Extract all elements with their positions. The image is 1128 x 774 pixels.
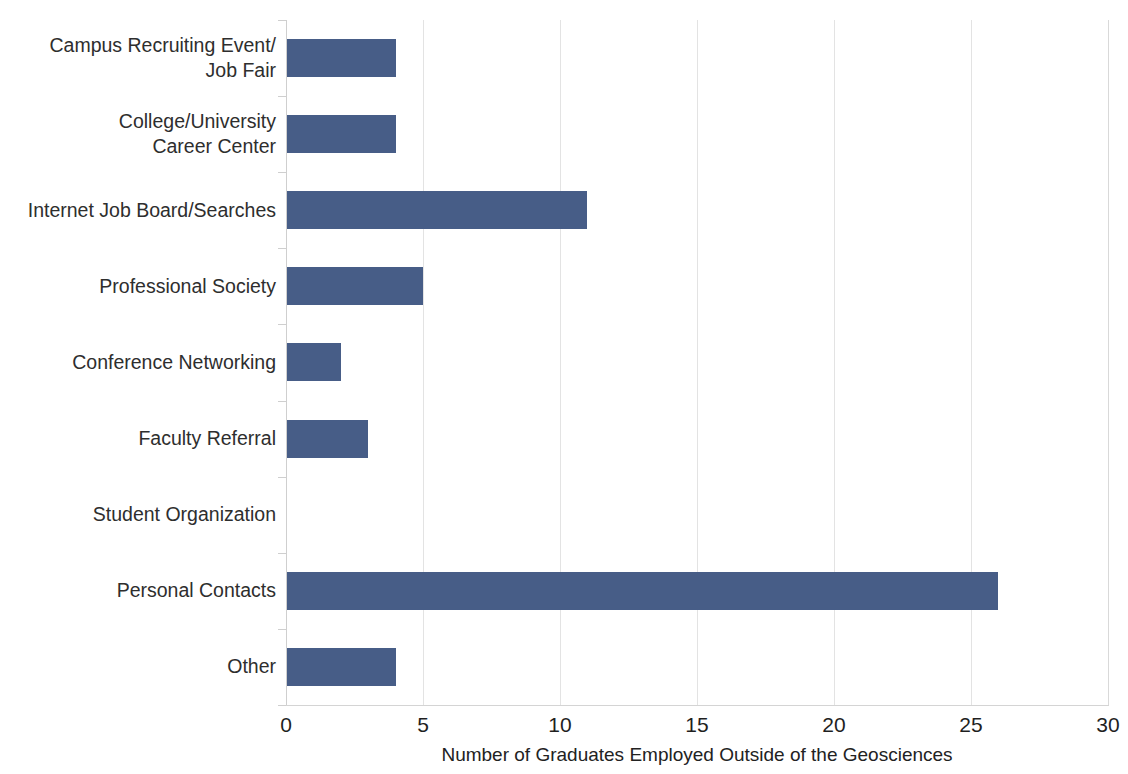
x-axis-tick-label: 30 <box>1096 710 1119 740</box>
gridline <box>1108 20 1109 705</box>
category-axis-labels: Campus Recruiting Event/ Job FairCollege… <box>0 20 286 705</box>
category-label: Personal Contacts <box>14 578 286 603</box>
x-axis-tick-label: 25 <box>959 710 982 740</box>
bar[interactable] <box>286 39 396 77</box>
category-label-slot: Professional Society <box>0 248 286 324</box>
category-label-slot: Faculty Referral <box>0 401 286 477</box>
category-label-slot: Other <box>0 629 286 705</box>
category-axis-tick <box>278 705 286 706</box>
category-label-slot: College/University Career Center <box>0 96 286 172</box>
category-axis-tick <box>278 401 286 402</box>
bar-row <box>286 553 1108 629</box>
bar-chart: Campus Recruiting Event/ Job FairCollege… <box>0 0 1128 774</box>
x-axis-tick-label: 5 <box>417 710 429 740</box>
bar-row <box>286 172 1108 248</box>
category-label: Conference Networking <box>14 350 286 375</box>
plot-area <box>286 20 1108 705</box>
x-axis-tick-label: 0 <box>280 710 292 740</box>
category-axis-tick <box>278 553 286 554</box>
category-label-slot: Personal Contacts <box>0 553 286 629</box>
bar-row <box>286 629 1108 705</box>
category-axis-tick <box>278 324 286 325</box>
bar-row <box>286 477 1108 553</box>
category-axis-tick <box>278 629 286 630</box>
bar[interactable] <box>286 343 341 381</box>
category-axis-tick <box>278 477 286 478</box>
category-axis-tick <box>278 96 286 97</box>
category-label: Campus Recruiting Event/ Job Fair <box>14 33 286 83</box>
bar-row <box>286 248 1108 324</box>
x-axis-tick-label: 10 <box>548 710 571 740</box>
bar[interactable] <box>286 267 423 305</box>
x-axis-tick-label: 15 <box>685 710 708 740</box>
category-label-slot: Campus Recruiting Event/ Job Fair <box>0 20 286 96</box>
bar-row <box>286 96 1108 172</box>
bar-row <box>286 401 1108 477</box>
bar[interactable] <box>286 115 396 153</box>
category-label: Other <box>14 654 286 679</box>
category-label: Student Organization <box>14 502 286 527</box>
bar[interactable] <box>286 572 998 610</box>
category-axis-tick <box>278 172 286 173</box>
category-label: College/University Career Center <box>14 109 286 159</box>
bar-row <box>286 20 1108 96</box>
category-label: Faculty Referral <box>14 426 286 451</box>
category-axis-tick <box>278 20 286 21</box>
x-axis-tick-label: 20 <box>822 710 845 740</box>
category-axis-tick <box>278 248 286 249</box>
value-axis-line <box>286 20 287 706</box>
bar[interactable] <box>286 191 587 229</box>
bar-row <box>286 324 1108 400</box>
x-axis-title: Number of Graduates Employed Outside of … <box>286 742 1108 768</box>
category-label-slot: Student Organization <box>0 477 286 553</box>
bar[interactable] <box>286 648 396 686</box>
category-label-slot: Conference Networking <box>0 324 286 400</box>
category-axis-line <box>286 705 1109 706</box>
category-label-slot: Internet Job Board/Searches <box>0 172 286 248</box>
category-label: Professional Society <box>14 274 286 299</box>
category-label: Internet Job Board/Searches <box>14 198 286 223</box>
bar[interactable] <box>286 420 368 458</box>
value-axis-tick-labels: 051015202530 <box>0 710 1128 744</box>
